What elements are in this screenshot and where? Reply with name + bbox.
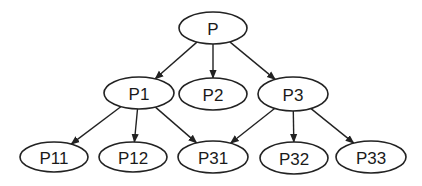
node-p32: P32 [260, 142, 328, 174]
node-p1: P1 [104, 77, 174, 109]
edge-p-to-p3 [230, 42, 275, 80]
node-label: P3 [283, 86, 304, 105]
node-p11: P11 [20, 142, 88, 172]
nodes-layer: PP1P2P3P11P12P31P32P33 [20, 12, 406, 174]
node-label: P33 [356, 149, 386, 168]
node-p31: P31 [178, 141, 248, 173]
node-p2: P2 [179, 78, 247, 110]
node-label: P11 [40, 149, 69, 168]
node-p3: P3 [258, 77, 328, 111]
edge-p1-to-p12 [134, 109, 137, 142]
tree-diagram: PP1P2P3P11P12P31P32P33 [0, 0, 422, 186]
node-label: P31 [198, 149, 228, 168]
edge-p3-to-p31 [231, 109, 275, 144]
edge-p3-to-p32 [293, 111, 294, 142]
node-label: P32 [279, 150, 309, 169]
edge-p1-to-p11 [71, 107, 121, 144]
edge-p3-to-p33 [311, 109, 354, 144]
node-label: P [207, 20, 218, 39]
edge-p-to-p1 [155, 42, 197, 79]
node-p33: P33 [336, 141, 406, 173]
node-p: P [179, 12, 247, 44]
node-label: P1 [129, 85, 150, 104]
node-label: P2 [203, 86, 224, 105]
node-p12: P12 [99, 142, 167, 172]
edge-p1-to-p31 [155, 107, 196, 143]
node-label: P12 [118, 149, 148, 168]
